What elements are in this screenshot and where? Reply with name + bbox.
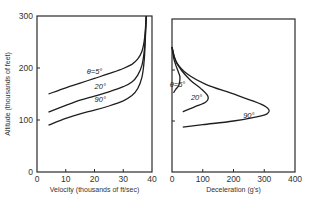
right-series-annotation: θ=5° <box>170 80 186 89</box>
left-x-tick-label: 40 <box>147 174 157 184</box>
left-series-annotation: 90° <box>95 95 106 104</box>
left-chart-velocity-altitude: 010203040 0100200300 θ=5°20°90° Velocity… <box>4 11 157 194</box>
right-x-tick-label: 100 <box>196 174 210 184</box>
right-x-tick-label: 400 <box>288 174 302 184</box>
left-y-tick-label: 300 <box>19 11 33 21</box>
right-x-tick-label: 300 <box>257 174 271 184</box>
right-series-annotation: 20° <box>190 93 202 102</box>
right-series-annotation: 90° <box>243 111 254 120</box>
left-x-axis-label: Velocity (thousands of ft/sec) <box>50 186 140 194</box>
left-y-tick-label: 100 <box>19 115 33 125</box>
left-y-tick-label: 0 <box>28 167 33 177</box>
left-x-tick-label: 20 <box>90 174 100 184</box>
left-x-tick-label: 10 <box>61 174 71 184</box>
right-x-tick-label: 200 <box>226 174 240 184</box>
right-x-axis-label: Deceleration (g's) <box>206 186 261 194</box>
chart-figure: 010203040 0100200300 θ=5°20°90° Velocity… <box>0 0 309 205</box>
left-series-annotation: 20° <box>94 82 106 91</box>
left-y-tick-label: 200 <box>19 63 33 73</box>
right-series-line <box>172 47 269 127</box>
left-series-annotation: θ=5° <box>87 67 103 76</box>
left-y-axis-label: Altitude (thousands of feet) <box>4 52 12 136</box>
right-chart-deceleration-altitude: 0100200300400 θ=5°20°90° Deceleration (g… <box>170 19 303 194</box>
left-x-tick-label: 30 <box>119 174 129 184</box>
left-x-tick-label: 0 <box>35 174 40 184</box>
right-x-tick-label: 0 <box>170 174 175 184</box>
